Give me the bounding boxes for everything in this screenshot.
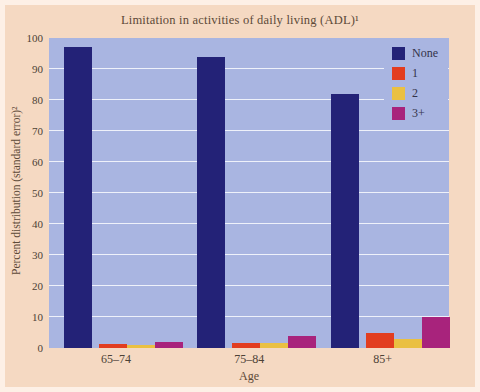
- x-tick-label-65-74: 65–74: [49, 352, 183, 367]
- bar-1-75-84: [232, 343, 260, 348]
- gridline-50: [49, 192, 449, 193]
- bar-2-75-84: [260, 343, 288, 348]
- legend-item-2: 2: [392, 87, 438, 100]
- x-tick-label-85: 85+: [316, 352, 450, 367]
- legend-swatch-none: [392, 47, 405, 60]
- legend-item-3: 3+: [392, 107, 438, 120]
- gridline-10: [49, 316, 449, 317]
- bar-3-85: [422, 317, 450, 348]
- bar-3-65-74: [155, 342, 183, 348]
- bar-1-65-74: [99, 344, 127, 348]
- legend-label-1: 1: [412, 67, 418, 80]
- gridline-20: [49, 285, 449, 286]
- legend-label-none: None: [412, 47, 438, 60]
- y-tick-label-70: 70: [9, 125, 43, 138]
- y-tick-label-90: 90: [9, 63, 43, 76]
- y-tick-label-0: 0: [9, 342, 43, 355]
- y-tick-label-80: 80: [9, 94, 43, 107]
- bar-2-65-74: [127, 345, 155, 348]
- figure: Limitation in activities of daily living…: [0, 0, 480, 392]
- bar-3-75-84: [288, 336, 316, 348]
- y-tick-label-50: 50: [9, 187, 43, 200]
- bar-none-75-84: [197, 57, 225, 348]
- legend-swatch-3: [392, 107, 405, 120]
- legend-item-1: 1: [392, 67, 438, 80]
- y-tick-label-60: 60: [9, 156, 43, 169]
- gridline-40: [49, 223, 449, 224]
- gridline-60: [49, 161, 449, 162]
- y-tick-label-100: 100: [9, 32, 43, 45]
- plot-area: None123+: [49, 38, 449, 348]
- legend-item-none: None: [392, 47, 438, 60]
- chart-panel: Limitation in activities of daily living…: [5, 5, 475, 387]
- chart-title: Limitation in activities of daily living…: [5, 13, 475, 28]
- bar-none-65-74: [64, 47, 92, 348]
- legend: None123+: [384, 41, 448, 126]
- bar-2-85: [394, 339, 422, 348]
- legend-label-2: 2: [412, 87, 418, 100]
- y-tick-label-10: 10: [9, 311, 43, 324]
- bar-1-85: [366, 333, 394, 349]
- legend-label-3: 3+: [412, 107, 425, 120]
- gridline-70: [49, 130, 449, 131]
- gridline-30: [49, 254, 449, 255]
- bar-none-85: [331, 94, 359, 348]
- y-tick-label-40: 40: [9, 218, 43, 231]
- y-tick-label-20: 20: [9, 280, 43, 293]
- y-tick-label-30: 30: [9, 249, 43, 262]
- x-tick-label-75-84: 75–84: [182, 352, 316, 367]
- legend-swatch-1: [392, 67, 405, 80]
- legend-swatch-2: [392, 87, 405, 100]
- x-axis-title: Age: [49, 369, 449, 384]
